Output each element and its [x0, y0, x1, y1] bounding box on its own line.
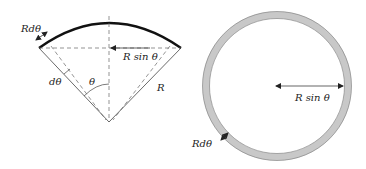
label-r: R [156, 82, 165, 93]
diagram-canvas: Rdθ R sin θ dθ θ R R sin θ Rdθ [0, 0, 366, 169]
ring-figure: R sin θ Rdθ [191, 12, 352, 161]
sector-arc [39, 23, 181, 48]
dtheta-tick [64, 69, 70, 74]
label-rsintheta-ring: R sin θ [294, 92, 330, 103]
label-rdtheta-left: Rdθ [20, 23, 41, 34]
label-theta: θ [89, 76, 95, 87]
label-rdtheta-ring: Rdθ [191, 138, 212, 149]
label-dtheta: dθ [49, 76, 61, 87]
theta-angle-arc [84, 84, 109, 96]
label-rsintheta-left: R sin θ [122, 51, 158, 62]
sector-figure: Rdθ R sin θ dθ θ R [20, 16, 181, 122]
